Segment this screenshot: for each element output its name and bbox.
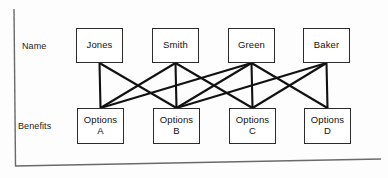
bottom-axis-line [15, 159, 381, 166]
node-options-b-label: Options B [160, 115, 193, 136]
node-green-label: Green [238, 40, 265, 51]
node-jones[interactable]: Jones [76, 28, 123, 63]
node-options-a-label: Options A [84, 115, 117, 136]
diagram-canvas: Name Benefits Jones Smith Green Baker Op… [0, 0, 388, 178]
node-jones-label: Jones [87, 40, 113, 51]
node-options-c-label: Options C [236, 115, 269, 136]
left-axis-line [14, 9, 16, 166]
node-smith[interactable]: Smith [152, 28, 199, 63]
benefits-row-label: Benefits [18, 121, 51, 131]
diagram-svg [0, 0, 388, 178]
edge-jones-to-options-a [100, 63, 101, 108]
node-smith-label: Smith [163, 40, 188, 51]
node-baker[interactable]: Baker [303, 28, 350, 63]
name-row-label: Name [22, 41, 46, 51]
node-options-b[interactable]: Options B [153, 108, 200, 144]
node-options-a[interactable]: Options A [77, 108, 124, 144]
node-options-d[interactable]: Options D [304, 108, 351, 144]
node-green[interactable]: Green [228, 28, 275, 63]
node-options-d-label: Options D [311, 115, 344, 136]
edge-baker-to-options-d [327, 63, 328, 108]
node-baker-label: Baker [314, 40, 339, 51]
edge-group [100, 63, 328, 108]
node-options-c[interactable]: Options C [229, 108, 276, 144]
